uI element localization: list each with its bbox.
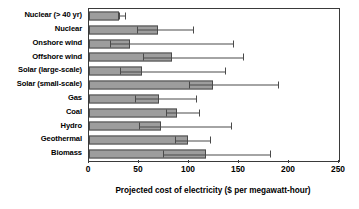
- category-label: Biomass: [0, 146, 86, 160]
- error-bar-line: [110, 44, 234, 45]
- x-axis-tick-label: 250: [331, 164, 345, 174]
- x-axis-tick-label: 200: [281, 164, 295, 174]
- error-bar-cap-high: [199, 109, 200, 116]
- bar-row: [89, 50, 339, 64]
- error-bar-cap-high: [193, 26, 194, 33]
- bar-row: [89, 92, 339, 106]
- x-axis-tick-label: 0: [86, 164, 91, 174]
- error-bar: [143, 54, 244, 61]
- error-bar: [175, 137, 211, 144]
- bar-row: [89, 78, 339, 92]
- error-bar: [163, 151, 271, 158]
- error-bar-cap-high: [278, 81, 279, 88]
- bar: [89, 136, 188, 145]
- error-bar-cap-low: [163, 151, 164, 158]
- error-bar-cap-high: [233, 40, 234, 47]
- bar-row: [89, 23, 339, 37]
- error-bar-cap-high: [270, 151, 271, 158]
- error-bar-cap-low: [110, 40, 111, 47]
- error-bar-line: [139, 126, 232, 127]
- category-label: Onshore wind: [0, 36, 86, 50]
- error-bar: [139, 123, 232, 130]
- error-bar: [189, 81, 279, 88]
- electricity-cost-bar-chart: Nuclear (> 40 yr)NuclearOnshore windOffs…: [0, 0, 359, 209]
- error-bar-cap-low: [135, 95, 136, 102]
- category-label: Nuclear (> 40 yr): [0, 8, 86, 22]
- error-bar-cap-low: [119, 12, 120, 19]
- x-axis-tick: [288, 160, 289, 163]
- error-bar-cap-high: [225, 68, 226, 75]
- x-axis-tick: [188, 160, 189, 163]
- bar-row: [89, 147, 339, 161]
- category-label: Offshore wind: [0, 49, 86, 63]
- error-bar-cap-high: [125, 12, 126, 19]
- category-label: Geothermal: [0, 132, 86, 146]
- category-label: Solar (large-scale): [0, 63, 86, 77]
- error-bar-cap-low: [137, 26, 138, 33]
- x-axis-tick-label: 100: [181, 164, 195, 174]
- bar-row: [89, 64, 339, 78]
- error-bar-line: [120, 71, 226, 72]
- bar-row: [89, 37, 339, 51]
- x-axis-tick: [138, 160, 139, 163]
- error-bar: [137, 26, 194, 33]
- x-axis: 050100150200250: [88, 160, 338, 176]
- error-bar-line: [137, 30, 194, 31]
- x-axis-tick-label: 150: [231, 164, 245, 174]
- error-bar-cap-high: [243, 54, 244, 61]
- category-label: Coal: [0, 105, 86, 119]
- error-bar: [166, 109, 200, 116]
- error-bar-cap-low: [139, 123, 140, 130]
- bar: [89, 108, 177, 117]
- error-bar: [120, 68, 226, 75]
- error-bar: [135, 95, 197, 102]
- x-axis-tick: [338, 160, 339, 163]
- error-bar-cap-high: [196, 95, 197, 102]
- category-label: Hydro: [0, 119, 86, 133]
- x-axis-tick: [88, 160, 89, 163]
- error-bar-line: [189, 85, 279, 86]
- error-bar-line: [166, 113, 200, 114]
- error-bar-cap-high: [210, 137, 211, 144]
- category-axis-labels: Nuclear (> 40 yr)NuclearOnshore windOffs…: [0, 8, 86, 160]
- category-label: Gas: [0, 91, 86, 105]
- x-axis-title: Projected cost of electricity ($ per meg…: [88, 186, 338, 195]
- error-bar-cap-high: [231, 123, 232, 130]
- category-label: Nuclear: [0, 22, 86, 36]
- error-bar: [110, 40, 234, 47]
- error-bar-line: [163, 154, 271, 155]
- error-bar-cap-low: [166, 109, 167, 116]
- category-label: Solar (small-scale): [0, 77, 86, 91]
- error-bar-cap-low: [189, 81, 190, 88]
- bars-layer: [89, 9, 339, 161]
- x-axis-tick-label: 50: [133, 164, 142, 174]
- error-bar-cap-low: [143, 54, 144, 61]
- bar-row: [89, 106, 339, 120]
- error-bar-line: [143, 57, 244, 58]
- bar-row: [89, 120, 339, 134]
- plot-area: [88, 8, 340, 162]
- error-bar-cap-low: [120, 68, 121, 75]
- error-bar: [119, 12, 126, 19]
- bar-row: [89, 133, 339, 147]
- error-bar-cap-low: [175, 137, 176, 144]
- bar: [89, 11, 119, 20]
- x-axis-tick: [238, 160, 239, 163]
- error-bar-line: [135, 99, 197, 100]
- error-bar-line: [175, 140, 211, 141]
- bar-row: [89, 9, 339, 23]
